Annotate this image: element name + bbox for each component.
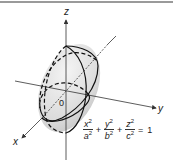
z-axis-label: z — [64, 7, 69, 17]
z-term: z2 c2 — [125, 118, 135, 142]
y-term: y2 b2 — [104, 118, 114, 142]
origin-label: 0 — [59, 99, 64, 108]
x-axis-label: x — [13, 137, 18, 147]
ellipsoid-equation: x2 a2 + y2 b2 + z2 c2 = 1 — [82, 118, 154, 142]
x-term: x2 a2 — [83, 118, 93, 142]
x-axis-back-outside — [108, 36, 116, 44]
x-axis — [22, 118, 42, 138]
y-axis-label: y — [158, 104, 163, 114]
